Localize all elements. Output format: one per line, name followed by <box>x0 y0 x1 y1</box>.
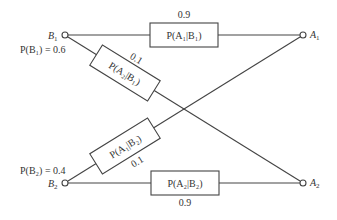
label-a2: A2 <box>309 177 320 190</box>
node-b1 <box>62 32 68 38</box>
box-p-a2-b2: P(A₂|B₂) <box>151 171 219 195</box>
prior-b1: P(B₁) = 0.6 <box>20 44 66 56</box>
channel-diagram: P(A₁|B₁) 0.9 P(A₂|B₂) 0.9 P(A₂|B₁) 0.1 P… <box>0 0 337 220</box>
box-label: P(A₁|B₁) <box>166 30 201 42</box>
edge-value-b1-a1: 0.9 <box>178 9 191 20</box>
box-p-a1-b1: P(A₁|B₁) <box>150 23 218 47</box>
node-a2 <box>300 180 306 186</box>
edge-value-b2-a2: 0.9 <box>179 197 192 208</box>
label-a1: A1 <box>309 29 320 42</box>
node-a1 <box>300 32 306 38</box>
prior-b2: P(B₂) = 0.4 <box>20 165 66 177</box>
label-b2: B2 <box>48 178 58 191</box>
box-label: P(A₂|B₂) <box>167 178 202 190</box>
node-b2 <box>62 180 68 186</box>
label-b1: B1 <box>48 30 58 43</box>
